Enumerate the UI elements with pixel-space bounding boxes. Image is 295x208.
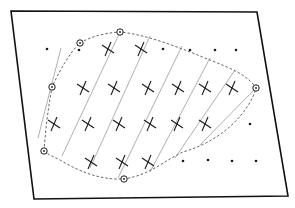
dot-marker [249,123,252,126]
cross-marker [199,117,211,131]
hatch-line [175,70,235,158]
figure-canvas [0,0,295,208]
circled-point-marker [117,29,123,35]
cross-marker [142,155,154,169]
dot-marker [78,49,81,52]
dot-marker [255,160,258,163]
cross-marker [226,81,238,95]
circled-point-marker [253,85,259,91]
dot-markers [46,48,258,163]
cross-marker [82,117,94,131]
dot-marker [162,48,165,51]
cross-marker [48,117,60,131]
circled-point-marker [77,40,83,46]
dot-marker [207,159,210,162]
circled-point-marker [49,84,55,90]
cross-marker [144,117,156,131]
hatch-line [150,58,210,172]
circled-point-markers [41,29,259,182]
hatch-lines [38,32,256,178]
dot-marker [189,49,192,52]
dot-marker [231,160,234,163]
cross-marker [199,81,211,95]
cross-marker [77,81,89,95]
cross-marker [135,42,147,56]
cross-marker [108,81,120,95]
circled-point-marker [41,148,47,154]
dot-marker [182,160,185,163]
cross-marker [172,81,184,95]
triangulation-diagram [0,0,295,208]
dot-marker [46,48,49,51]
cross-marker [113,117,125,131]
cross-marker [142,81,154,95]
cross-markers [48,42,238,169]
dot-marker [235,49,238,52]
dot-marker [214,49,217,52]
circled-point-marker [121,176,127,182]
hatch-line [90,36,150,168]
hatch-line [200,88,256,145]
hatch-line [38,48,61,138]
